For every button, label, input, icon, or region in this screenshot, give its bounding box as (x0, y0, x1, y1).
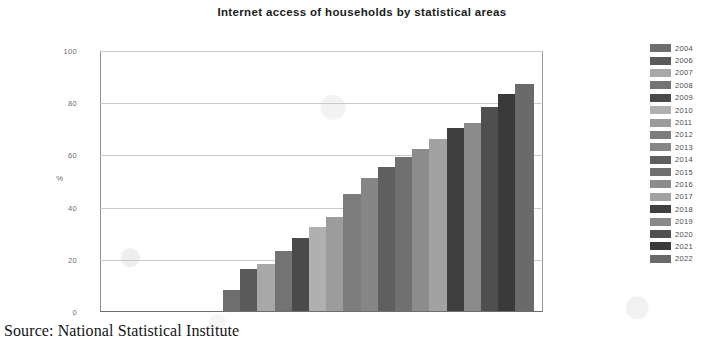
y-axis-line (100, 51, 101, 312)
legend-label: 2009 (675, 93, 693, 102)
legend-label: 2020 (675, 230, 693, 239)
bar (343, 194, 362, 311)
legend-label: 2012 (675, 130, 693, 139)
legend-label: 2008 (675, 81, 693, 90)
legend-item[interactable]: 2016 (650, 178, 722, 190)
legend-swatch (650, 230, 671, 238)
bar (309, 227, 328, 311)
legend-swatch (650, 242, 671, 250)
legend-label: 2006 (675, 56, 693, 65)
bar (257, 264, 276, 311)
legend-item[interactable]: 2019 (650, 215, 722, 227)
legend-item[interactable]: 2021 (650, 240, 722, 252)
legend-swatch (650, 44, 671, 52)
legend-item[interactable]: 2009 (650, 92, 722, 104)
source-note: Source: National Statistical Institute (4, 322, 239, 340)
legend-swatch (650, 94, 671, 102)
legend-label: 2019 (675, 217, 693, 226)
bar-series (223, 51, 543, 311)
bar (292, 238, 311, 311)
legend-label: 2010 (675, 106, 693, 115)
bar (326, 217, 345, 311)
legend-item[interactable]: 2012 (650, 129, 722, 141)
plot-area (100, 51, 543, 312)
bar (412, 149, 431, 311)
legend-item[interactable]: 2008 (650, 79, 722, 91)
legend-swatch (650, 119, 671, 127)
legend-label: 2014 (675, 155, 693, 164)
legend-swatch (650, 131, 671, 139)
y-tick-label: 80 (37, 99, 77, 108)
bar (223, 290, 242, 311)
legend-swatch (650, 57, 671, 65)
legend-item[interactable]: 2006 (650, 54, 722, 66)
legend-item[interactable]: 2011 (650, 116, 722, 128)
legend-swatch (650, 106, 671, 114)
legend-item[interactable]: 2017 (650, 191, 722, 203)
legend-swatch (650, 255, 671, 263)
legend-label: 2021 (675, 242, 693, 251)
legend-swatch (650, 193, 671, 201)
legend-swatch (650, 81, 671, 89)
legend-item[interactable]: 2004 (650, 42, 722, 54)
y-tick-label: 20 (37, 256, 77, 265)
y-tick-label: 60 (37, 151, 77, 160)
legend-label: 2007 (675, 68, 693, 77)
legend-item[interactable]: 2020 (650, 228, 722, 240)
legend-item[interactable]: 2022 (650, 253, 722, 265)
bar (429, 139, 448, 311)
bar (464, 123, 483, 311)
y-tick-label: 100 (37, 47, 77, 56)
legend-label: 2017 (675, 192, 693, 201)
legend-label: 2004 (675, 44, 693, 53)
y-tick-label: 0 (37, 308, 77, 317)
chart-title: Internet access of households by statist… (0, 6, 724, 18)
legend-item[interactable]: 2007 (650, 67, 722, 79)
bar (481, 107, 500, 311)
legend-swatch (650, 205, 671, 213)
legend-swatch (650, 168, 671, 176)
legend-label: 2022 (675, 254, 693, 263)
bar (361, 178, 380, 311)
legend-swatch (650, 143, 671, 151)
x-axis-line (100, 311, 543, 312)
bar (275, 251, 294, 311)
legend-item[interactable]: 2010 (650, 104, 722, 116)
chart-page: Internet access of households by statist… (0, 0, 724, 358)
legend-swatch (650, 69, 671, 77)
legend-label: 2016 (675, 180, 693, 189)
y-axis-label: % (56, 174, 63, 183)
legend-label: 2015 (675, 168, 693, 177)
legend-label: 2013 (675, 143, 693, 152)
bar (498, 94, 517, 311)
legend-swatch (650, 218, 671, 226)
legend-swatch (650, 180, 671, 188)
bar (378, 167, 397, 311)
legend: 2004200620072008200920102011201220132014… (650, 42, 722, 265)
bar (515, 84, 534, 311)
y-tick-label: 40 (37, 204, 77, 213)
bar (447, 128, 466, 311)
legend-label: 2018 (675, 205, 693, 214)
legend-item[interactable]: 2013 (650, 141, 722, 153)
bar (395, 157, 414, 311)
legend-label: 2011 (675, 118, 692, 127)
legend-item[interactable]: 2018 (650, 203, 722, 215)
legend-item[interactable]: 2014 (650, 154, 722, 166)
legend-swatch (650, 156, 671, 164)
legend-item[interactable]: 2015 (650, 166, 722, 178)
bar (240, 269, 259, 311)
